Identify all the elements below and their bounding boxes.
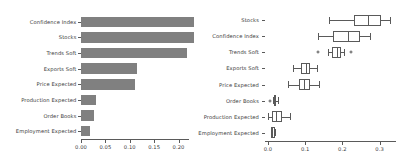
box-whisker-low-price-expected — [288, 85, 299, 86]
box-whisker-cap-high-confidence-index — [370, 33, 371, 40]
box-y-tick — [262, 52, 265, 53]
box-whisker-cap-high-price-expected — [319, 81, 320, 88]
bar-y-label-exports-soft: Exports Soft — [44, 66, 77, 72]
box-y-tick — [262, 85, 265, 86]
box-whisker-cap-high-stocks — [390, 17, 391, 24]
box-x-tick-label: 0.2 — [338, 146, 347, 152]
box-whisker-high-production-expected — [282, 117, 290, 118]
box-median-stocks — [368, 15, 369, 26]
bar-y-tick — [78, 131, 81, 132]
box-median-employment-expected — [272, 127, 273, 138]
bar-x-tick-label: 0.15 — [148, 144, 160, 150]
bar-y-label-price-expected: Price Expected — [37, 81, 77, 87]
bar-y-tick — [78, 37, 81, 38]
box-median-confidence-index — [348, 31, 349, 42]
bar-y-label-stocks: Stocks — [59, 34, 77, 40]
box-outlier-order-books — [268, 99, 271, 102]
bar-y-label-confidence-index: Confidence Index — [30, 19, 77, 25]
panel-bar-chart: 0.000.050.100.150.20Confidence IndexStoc… — [0, 0, 198, 165]
box-whisker-high-exports-soft — [310, 68, 317, 69]
box-whisker-cap-high-production-expected — [290, 113, 291, 120]
box-whisker-cap-high-trends-soft — [344, 49, 345, 56]
box-median-trends-soft — [337, 47, 338, 58]
bar-production-expected — [81, 95, 96, 106]
box-whisker-cap-high-employment-expected — [275, 129, 276, 136]
bar-exports-soft — [81, 63, 137, 74]
box-y-label-order-books: Order Books — [226, 98, 259, 104]
bar-confidence-index — [81, 17, 194, 28]
bar-trends-soft — [81, 48, 187, 59]
bar-stocks — [81, 32, 194, 43]
bar-y-label-trends-soft: Trends Soft — [47, 50, 77, 56]
box-x-tick-label: 0.0 — [264, 146, 273, 152]
box-whisker-cap-low-stocks — [329, 17, 330, 24]
box-median-price-expected — [304, 79, 305, 90]
bar-y-label-order-books: Order Books — [43, 113, 76, 119]
box-outlier-trends-soft — [350, 51, 353, 54]
box-median-order-books — [275, 95, 276, 106]
box-plot-plot-area: 0.00.10.20.3StocksConfidence IndexTrends… — [198, 0, 396, 165]
bar-order-books — [81, 110, 94, 121]
bar-x-axis-line — [81, 139, 189, 140]
box-y-label-production-expected: Production Expected — [204, 114, 259, 120]
box-whisker-cap-high-order-books — [278, 97, 279, 104]
box-whisker-high-confidence-index — [360, 36, 369, 37]
box-whisker-high-stocks — [381, 20, 389, 21]
bar-y-label-production-expected: Production Expected — [21, 97, 76, 103]
box-y-tick — [262, 36, 265, 37]
box-y-label-stocks: Stocks — [241, 17, 259, 23]
box-y-tick — [262, 68, 265, 69]
bar-x-tick-label: 0.10 — [124, 144, 136, 150]
box-y-label-exports-soft: Exports Soft — [226, 65, 259, 71]
box-y-tick — [262, 133, 265, 134]
box-y-label-confidence-index: Confidence Index — [212, 33, 259, 39]
box-whisker-low-confidence-index — [318, 36, 334, 37]
bar-employment-expected — [81, 126, 90, 137]
box-y-tick — [262, 117, 265, 118]
bar-chart-plot-area: 0.000.050.100.150.20Confidence IndexStoc… — [0, 0, 198, 165]
box-whisker-high-price-expected — [310, 85, 319, 86]
box-whisker-cap-low-confidence-index — [318, 33, 319, 40]
figure-two-panel-chart: 0.000.050.100.150.20Confidence IndexStoc… — [0, 0, 396, 165]
bar-price-expected — [81, 79, 135, 90]
bar-y-tick — [78, 116, 81, 117]
bar-y-tick — [78, 84, 81, 85]
box-y-label-trends-soft: Trends Soft — [229, 49, 259, 55]
box-x-tick-label: 0.3 — [375, 146, 384, 152]
box-whisker-low-exports-soft — [293, 68, 301, 69]
box-y-label-employment-expected: Employment Expected — [198, 130, 259, 136]
box-x-tick-label: 0.1 — [301, 146, 310, 152]
box-whisker-cap-low-trends-soft — [328, 49, 329, 56]
box-iqr-confidence-index — [333, 31, 360, 42]
box-y-label-price-expected: Price Expected — [219, 82, 259, 88]
box-whisker-cap-low-exports-soft — [293, 65, 294, 72]
bar-y-label-employment-expected: Employment Expected — [16, 128, 77, 134]
bar-y-tick — [78, 100, 81, 101]
box-x-axis-line — [265, 141, 396, 142]
box-y-tick — [262, 20, 265, 21]
box-median-production-expected — [276, 111, 277, 122]
box-whisker-low-stocks — [329, 20, 355, 21]
bar-y-tick — [78, 69, 81, 70]
box-whisker-cap-high-exports-soft — [317, 65, 318, 72]
panel-box-plot: 0.00.10.20.3StocksConfidence IndexTrends… — [198, 0, 396, 165]
bar-y-tick — [78, 22, 81, 23]
bar-x-tick-label: 0.00 — [75, 144, 87, 150]
bar-y-tick — [78, 53, 81, 54]
box-median-exports-soft — [306, 63, 307, 74]
bar-x-tick-label: 0.20 — [173, 144, 185, 150]
box-y-tick — [262, 101, 265, 102]
box-outlier-trends-soft — [317, 51, 320, 54]
box-whisker-cap-low-production-expected — [268, 113, 269, 120]
bar-x-tick-label: 0.05 — [99, 144, 111, 150]
box-whisker-cap-low-price-expected — [288, 81, 289, 88]
